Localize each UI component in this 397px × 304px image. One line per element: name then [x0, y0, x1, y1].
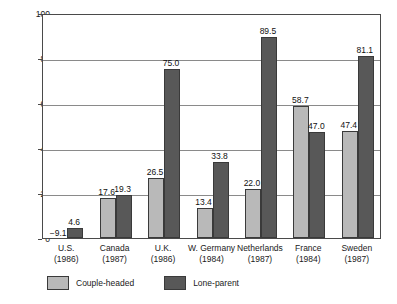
x-category-name: Canada [100, 243, 130, 253]
bar [261, 37, 277, 238]
bar [197, 208, 213, 238]
bar-value-label: 26.5 [140, 168, 170, 177]
bar-value-label: 33.8 [205, 152, 235, 161]
x-category-name: Sweden [341, 243, 372, 253]
x-category-year: (1987) [327, 254, 387, 265]
bar-value-label: 47.4 [334, 121, 364, 130]
bar-value-label: 81.1 [350, 46, 380, 55]
legend-item-lone-parent: Lone-parent [164, 276, 239, 290]
bar-value-label: 75.0 [156, 59, 186, 68]
bar [116, 195, 132, 238]
legend-swatch-lone-parent [164, 276, 186, 290]
bar-value-label: 13.4 [189, 198, 219, 207]
legend-item-couple-headed: Couple-headed [47, 276, 134, 290]
bar [245, 189, 261, 239]
y-tick-mark [38, 239, 42, 240]
x-category-name: Netherlands [237, 243, 283, 253]
chart-legend: Couple-headed Lone-parent [47, 276, 239, 290]
x-category-name: W. Germany [188, 243, 235, 253]
bar [358, 56, 374, 238]
bar [342, 131, 358, 238]
bar-value-label: 19.3 [108, 185, 138, 194]
x-category-name: U.K. [155, 243, 172, 253]
bar-value-label: 89.5 [253, 27, 283, 36]
bar-value-label: 47.0 [301, 122, 331, 131]
bar-value-label: −9.1 [43, 229, 73, 238]
bar-chart: Percent 020406080100 −9.14.617.619.326.5… [0, 0, 397, 304]
x-category-name: France [295, 243, 321, 253]
bar [309, 132, 325, 238]
x-category-name: U.S. [58, 243, 75, 253]
bar-value-label: 4.6 [59, 218, 89, 227]
bar [148, 178, 164, 238]
bar-value-label: 58.7 [285, 96, 315, 105]
x-category-label: Sweden(1987) [327, 243, 387, 265]
legend-label-couple-headed: Couple-headed [76, 278, 134, 288]
bar [100, 198, 116, 238]
bar [164, 69, 180, 238]
legend-swatch-couple-headed [47, 276, 69, 290]
bar-value-label: 22.0 [237, 179, 267, 188]
gridline [43, 60, 380, 61]
legend-label-lone-parent: Lone-parent [193, 278, 239, 288]
gridline [43, 105, 380, 106]
